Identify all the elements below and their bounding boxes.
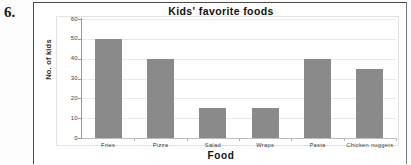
gridline (82, 79, 396, 80)
y-axis-tick-label: 40 (58, 55, 78, 61)
chart-container: Kids' favorite foods No. of kids 0102030… (33, 2, 407, 164)
worksheet-page: 6. Kids' favorite foods No. of kids 0102… (0, 0, 411, 165)
x-axis-tick-mark (396, 138, 397, 141)
bar (199, 108, 226, 138)
y-axis-title: No. of kids (44, 30, 53, 90)
x-axis-tick-mark (187, 138, 188, 141)
x-axis-tick-label: Pasta (291, 142, 343, 149)
x-axis-tick-label: Fries (82, 142, 134, 149)
gridline (82, 118, 396, 119)
y-axis-tick-labels: 0102030405060 (56, 19, 78, 138)
x-axis-tick-mark (344, 138, 345, 141)
y-axis-tick-label: 10 (58, 115, 78, 121)
bar (356, 69, 383, 138)
x-axis-tick-label: Salad (187, 142, 239, 149)
x-axis-tick-label: Pizza (134, 142, 186, 149)
y-axis-tick-label: 60 (58, 16, 78, 22)
x-axis-tick-mark (134, 138, 135, 141)
y-axis-tick-mark (78, 138, 81, 139)
x-axis-tick-label: Wraps (239, 142, 291, 149)
x-axis-tick-mark (291, 138, 292, 141)
gridline (82, 59, 396, 60)
plot-area (82, 19, 396, 138)
y-axis-tick-mark (78, 118, 81, 119)
y-axis-tick-mark (78, 59, 81, 60)
gridline (82, 19, 396, 20)
bar (147, 59, 174, 138)
y-axis-tick-label: 30 (58, 75, 78, 81)
question-number: 6. (4, 4, 15, 21)
bar (304, 59, 331, 138)
gridline (82, 98, 396, 99)
y-axis-tick-mark (78, 79, 81, 80)
y-axis-tick-mark (78, 19, 81, 20)
bar (252, 108, 279, 138)
gridline (82, 39, 396, 40)
x-axis-tick-label: Chicken nuggets (344, 142, 396, 149)
x-axis-title: Food (34, 150, 408, 161)
y-axis-tick-mark (78, 39, 81, 40)
bar (95, 39, 122, 138)
y-axis-tick-label: 20 (58, 95, 78, 101)
x-axis-tick-mark (239, 138, 240, 141)
y-axis-tick-label: 50 (58, 35, 78, 41)
y-axis-tick-mark (78, 98, 81, 99)
y-axis-tick-label: 0 (58, 135, 78, 141)
